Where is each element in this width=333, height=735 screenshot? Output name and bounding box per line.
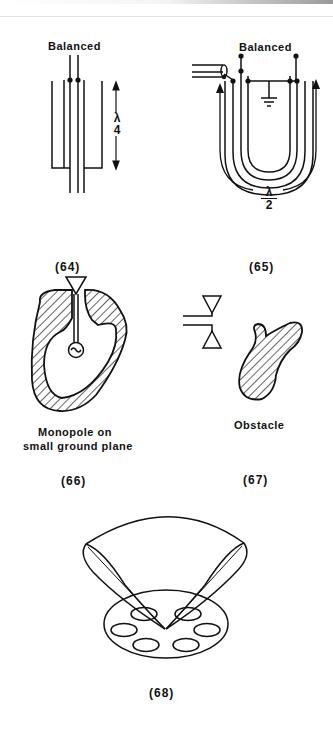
figure-67-obstacle-label: Obstacle [234,419,284,431]
figure-68-caption: (68) [149,686,174,700]
figure-65-lambda-half: λ 2 [261,186,277,211]
figure-64-balun [52,55,102,193]
figure-68-beam-pattern [83,517,247,658]
figure-66-label-line1: Monopole on [38,426,112,438]
figure-64-lambda-den: 4 [110,124,124,136]
figure-65-terminals [222,53,300,83]
figure-66-label-line2: small ground plane [23,440,133,452]
figure-67-obstacle [239,322,302,399]
figure-65-lambda-den: 2 [261,199,277,211]
figure-65-caption: (65) [249,260,274,274]
figure-65-balanced-label: Balanced [239,41,292,53]
figure-67-caption: (67) [243,473,268,487]
figure-65-u-balun [192,56,313,195]
diagram-canvas [0,0,333,735]
figure-64-caption: (64) [55,260,80,274]
figure-64-terminals [67,77,80,82]
figure-64-lambda-quarter: λ 4 [110,112,124,136]
figure-64-balanced-label: Balanced [48,40,101,52]
figure-67-dipole [183,296,221,348]
figure-66-caption: (66) [61,474,86,488]
